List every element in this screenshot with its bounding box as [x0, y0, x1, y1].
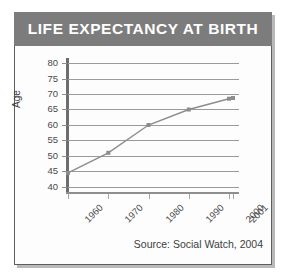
- chart-title-banner: LIFE EXPECTANCY AT BIRTH: [14, 12, 272, 46]
- source-note: Source: Social Watch, 2004: [15, 238, 263, 250]
- chart-screenshot: LIFE EXPECTANCY AT BIRTH Age 40455055606…: [0, 0, 288, 279]
- page-title: LIFE EXPECTANCY AT BIRTH: [28, 20, 259, 38]
- data-point-marker: [66, 171, 70, 175]
- data-point-marker: [227, 97, 231, 101]
- data-point-marker: [106, 151, 110, 155]
- data-point-marker: [231, 96, 235, 100]
- series-line: [68, 98, 233, 173]
- data-point-marker: [187, 108, 191, 112]
- chart-plot-container: Age 404550556065707580 19601970198019902…: [15, 46, 271, 264]
- line-series: [15, 46, 271, 212]
- data-point-marker: [147, 123, 151, 127]
